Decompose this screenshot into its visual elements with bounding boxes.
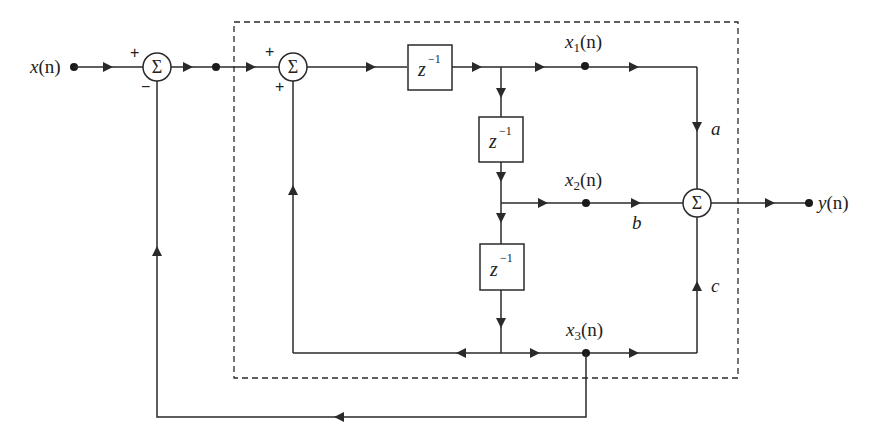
delay-block-1: z −1 xyxy=(408,45,452,90)
arrow-icon xyxy=(472,62,482,72)
plus-sign: + xyxy=(265,43,274,60)
arrow-icon xyxy=(535,62,545,72)
x1-node xyxy=(581,62,589,70)
output-label: y xyxy=(816,192,827,213)
arrow-icon xyxy=(631,198,641,208)
svg-text:z: z xyxy=(488,130,497,152)
arrow-icon xyxy=(456,348,466,358)
arrow-icon xyxy=(183,62,193,72)
arrow-icon xyxy=(538,198,548,208)
svg-text:z: z xyxy=(489,258,498,280)
arrow-icon xyxy=(765,198,775,208)
arrow-icon xyxy=(692,122,702,132)
output-summer: Σ xyxy=(683,189,711,217)
x2-label: x2(n) xyxy=(564,169,602,193)
arrow-icon xyxy=(152,246,162,256)
gain-a-label: a xyxy=(711,118,721,139)
svg-text:x(n): x(n) xyxy=(29,56,61,78)
arrow-icon xyxy=(496,318,506,328)
output-node: y(n) xyxy=(805,192,849,214)
plus-sign: + xyxy=(130,44,139,61)
delay-block-2: z −1 xyxy=(479,117,523,162)
arrow-icon xyxy=(288,185,298,195)
arrow-icon xyxy=(629,348,639,358)
x2-node xyxy=(582,199,590,207)
arrow-icon xyxy=(496,172,506,182)
svg-text:Σ: Σ xyxy=(288,57,298,77)
x3-label: x3(n) xyxy=(565,319,603,343)
svg-text:Σ: Σ xyxy=(152,57,162,77)
subsystem-boundary xyxy=(234,22,738,378)
arrow-icon xyxy=(496,88,506,98)
arrow-icon xyxy=(103,62,113,72)
arrow-icon xyxy=(334,412,344,422)
arrow-icon xyxy=(246,62,256,72)
delay-block-3: z −1 xyxy=(480,244,524,290)
svg-text:y(n): y(n) xyxy=(816,192,849,214)
summer-2: Σ + + xyxy=(265,43,307,95)
gain-c-label: c xyxy=(711,275,720,296)
svg-text:−1: −1 xyxy=(500,251,513,265)
svg-text:−1: −1 xyxy=(499,124,512,138)
x1-label: x1(n) xyxy=(564,31,602,55)
plus-sign: + xyxy=(275,78,284,95)
arrow-icon xyxy=(496,213,506,223)
gain-b-label: b xyxy=(632,212,642,233)
arrow-icon xyxy=(530,348,540,358)
input-node: x(n) xyxy=(29,56,78,78)
minus-sign: − xyxy=(141,78,150,95)
summer-1: Σ + − xyxy=(130,44,171,95)
arrow-icon xyxy=(366,62,376,72)
junction-node xyxy=(212,63,220,71)
block-diagram: x(n) Σ + − Σ + + z −1 x1(n) z −1 xyxy=(0,0,876,440)
svg-text:z: z xyxy=(417,58,426,80)
svg-text:Σ: Σ xyxy=(692,193,702,213)
arrow-icon xyxy=(629,62,639,72)
svg-text:−1: −1 xyxy=(428,52,441,66)
arrow-icon xyxy=(692,281,702,291)
